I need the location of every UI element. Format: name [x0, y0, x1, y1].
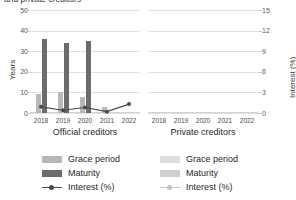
y-axis-left-tick-mark — [26, 113, 30, 114]
panel-private-creditors — [148, 10, 258, 113]
gridline — [148, 51, 258, 52]
gridline — [148, 92, 258, 93]
panel-official-creditors — [30, 10, 140, 113]
y-axis-left-tick-mark — [26, 31, 30, 32]
x-axis-tick-label: 2020 — [74, 117, 96, 125]
legend-item-interest: Interest (%) — [42, 180, 120, 194]
x-axis-tick-label: 2019 — [52, 117, 74, 125]
x-axis-tick-label: 2019 — [170, 117, 192, 125]
gridline — [30, 113, 140, 114]
legend-item-grace: Grace period — [160, 152, 238, 166]
y-axis-left-tick-mark — [26, 10, 30, 11]
x-axis-tick-label: 2018 — [148, 117, 170, 125]
y-axis-right-tick-label: 6 — [262, 68, 284, 75]
legend-label-grace: Grace period — [186, 154, 238, 165]
grace-swatch-icon — [160, 156, 180, 163]
x-axis-tick-label: 2021 — [214, 117, 236, 125]
y-axis-right-title: Interest (%) — [288, 57, 296, 98]
y-axis-left-tick-label: 0 — [6, 110, 28, 117]
interest-line-swatch-icon — [42, 184, 62, 191]
plot-area — [30, 10, 258, 113]
y-axis-left-tick-mark — [26, 51, 30, 52]
y-axis-left-tick-label: 40 — [6, 27, 28, 34]
y-axis-right-tick-mark — [258, 51, 262, 52]
panel-caption: Official creditors — [30, 127, 140, 137]
chart-root: and private creditors 010203040500369121… — [0, 0, 296, 200]
legend-item-maturity: Maturity — [160, 166, 238, 180]
gridline — [148, 31, 258, 32]
gridline — [148, 72, 258, 73]
gridline — [148, 113, 258, 114]
chart-title-text: and private creditors — [4, 0, 204, 4]
legend-item-maturity: Maturity — [42, 166, 120, 180]
y-axis-right-tick-label: 3 — [262, 89, 284, 96]
maturity-swatch-icon — [42, 170, 62, 177]
y-axis-right-tick-mark — [258, 31, 262, 32]
x-axis-tick-label: 2022 — [236, 117, 258, 125]
y-axis-right-tick-mark — [258, 72, 262, 73]
y-axis-right-tick-label: 0 — [262, 110, 284, 117]
interest-line-series — [30, 10, 140, 113]
legend-label-grace: Grace period — [68, 154, 120, 165]
y-axis-right-tick-mark — [258, 113, 262, 114]
legend-official: Grace period Maturity Interest (%) — [42, 152, 120, 194]
legend-label-interest: Interest (%) — [68, 182, 115, 193]
y-axis-right-tick-mark — [258, 10, 262, 11]
x-axis-tick-label: 2020 — [192, 117, 214, 125]
legend-label-maturity: Maturity — [68, 168, 100, 179]
grace-swatch-icon — [42, 156, 62, 163]
y-axis-left-title: Years — [8, 60, 17, 80]
y-axis-left-tick-label: 50 — [6, 7, 28, 14]
legend-label-maturity: Maturity — [186, 168, 218, 179]
interest-line-swatch-icon — [160, 184, 180, 191]
legend-label-interest: Interest (%) — [186, 182, 233, 193]
y-axis-left-tick-mark — [26, 92, 30, 93]
legend-item-grace: Grace period — [42, 152, 120, 166]
legend-private: Grace period Maturity Interest (%) — [160, 152, 238, 194]
y-axis-right-tick-label: 9 — [262, 48, 284, 55]
y-axis-left-tick-mark — [26, 72, 30, 73]
x-axis-tick-label: 2022 — [118, 117, 140, 125]
gridline — [148, 10, 258, 11]
y-axis-right-tick-label: 15 — [262, 7, 284, 14]
y-axis-left-tick-label: 10 — [6, 89, 28, 96]
x-axis-tick-label: 2018 — [30, 117, 52, 125]
chart-title-clipped: and private creditors — [4, 0, 204, 4]
panel-caption: Private creditors — [148, 127, 258, 137]
y-axis-right-tick-label: 12 — [262, 27, 284, 34]
maturity-swatch-icon — [160, 170, 180, 177]
legend-item-interest: Interest (%) — [160, 180, 238, 194]
x-axis-tick-label: 2021 — [96, 117, 118, 125]
y-axis-left-tick-label: 30 — [6, 48, 28, 55]
y-axis-right-tick-mark — [258, 92, 262, 93]
